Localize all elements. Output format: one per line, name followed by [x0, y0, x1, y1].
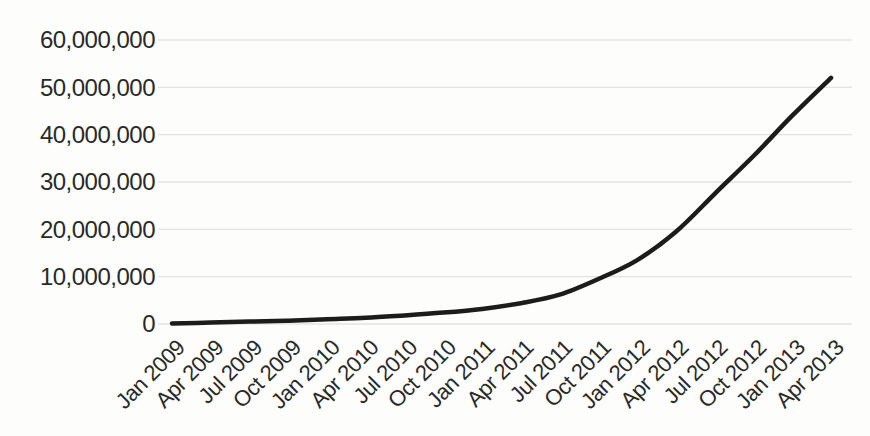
data-series [172, 78, 831, 324]
y-axis-tick-label: 10,000,000 [40, 263, 155, 290]
data-series-line [172, 78, 831, 324]
y-axis-tick-label: 40,000,000 [40, 121, 155, 148]
x-axis-labels: Jan 2009Apr 2009Jul 2009Oct 2009Jan 2010… [111, 335, 849, 414]
y-axis-tick-label: 50,000,000 [40, 74, 155, 101]
gridlines [158, 40, 852, 324]
y-axis-labels: 010,000,00020,000,00030,000,00040,000,00… [40, 26, 155, 337]
growth-line-chart: 010,000,00020,000,00030,000,00040,000,00… [0, 0, 870, 436]
y-axis-tick-label: 20,000,000 [40, 216, 155, 243]
chart-page: 010,000,00020,000,00030,000,00040,000,00… [0, 0, 870, 436]
y-axis-tick-label: 60,000,000 [40, 26, 155, 53]
y-axis-tick-label: 0 [142, 310, 155, 337]
y-axis-tick-label: 30,000,000 [40, 168, 155, 195]
